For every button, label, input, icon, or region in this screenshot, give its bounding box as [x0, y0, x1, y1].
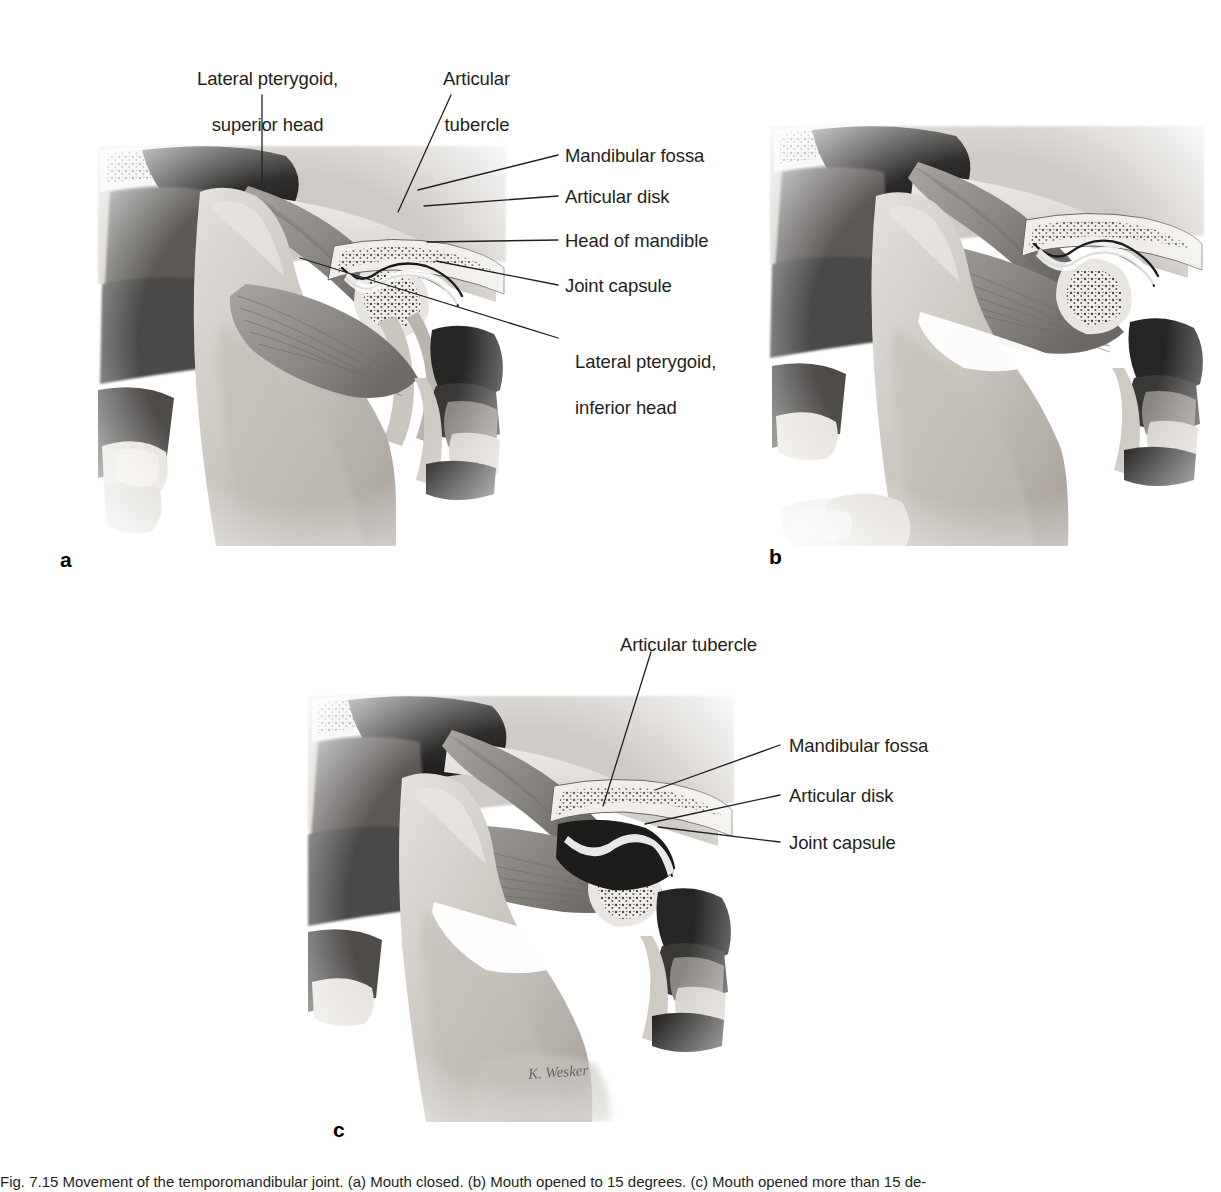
- caption-line-1: Fig. 7.15 Movement of the temporomandibu…: [0, 1173, 926, 1190]
- label-a-lateral-pterygoid-superior-head: Lateral pterygoid, superior head: [160, 44, 365, 136]
- label-line: Articular: [443, 68, 510, 89]
- label-a-joint-capsule: Joint capsule: [565, 274, 672, 297]
- label-line: Lateral pterygoid,: [575, 351, 716, 372]
- label-a-articular-tubercle: Articular tubercle: [402, 44, 542, 136]
- panel-c-illustration: K. Wesker: [306, 686, 736, 1122]
- panel-c-svg: [306, 686, 736, 1122]
- label-c-articular-tubercle: Articular tubercle: [620, 633, 757, 656]
- label-a-head-of-mandible: Head of mandible: [565, 229, 708, 252]
- figure-caption: Fig. 7.15 Movement of the temporomandibu…: [0, 1172, 1221, 1192]
- label-line: tubercle: [445, 114, 510, 135]
- panel-letter-c: c: [333, 1118, 345, 1142]
- label-line: superior head: [212, 114, 324, 135]
- label-c-articular-disk: Articular disk: [789, 784, 894, 807]
- label-line: inferior head: [575, 397, 677, 418]
- label-a-mandibular-fossa: Mandibular fossa: [565, 144, 704, 167]
- panel-b-illustration: [768, 116, 1208, 546]
- label-c-mandibular-fossa: Mandibular fossa: [789, 734, 928, 757]
- label-a-lateral-pterygoid-inferior-head: Lateral pterygoid, inferior head: [565, 327, 716, 419]
- panel-b-svg: [768, 116, 1208, 546]
- label-c-joint-capsule: Joint capsule: [789, 831, 896, 854]
- label-line: Lateral pterygoid,: [197, 68, 338, 89]
- panel-letter-a: a: [60, 548, 72, 572]
- panel-a-svg: [96, 134, 508, 546]
- panel-a-illustration: [96, 134, 508, 546]
- label-a-articular-disk: Articular disk: [565, 185, 670, 208]
- panel-letter-b: b: [769, 545, 782, 569]
